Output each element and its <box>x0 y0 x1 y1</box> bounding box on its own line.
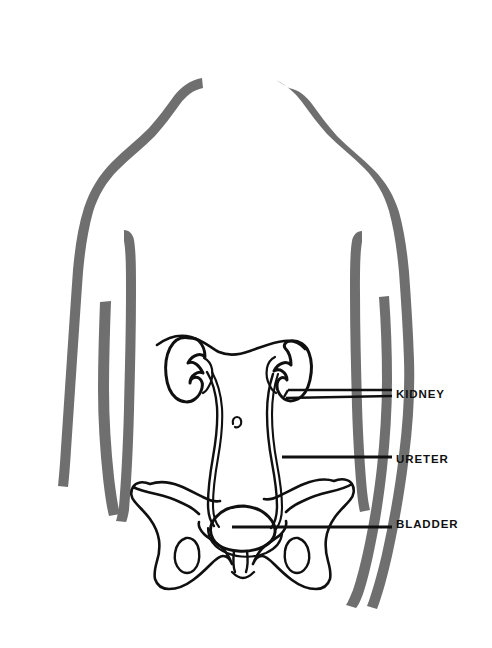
inner-band-right <box>350 231 370 512</box>
label-kidney: KIDNEY <box>396 389 445 401</box>
urinary-system-diagram: KIDNEY URETER BLADDER <box>0 0 492 648</box>
obturator-foramen-left <box>175 538 200 573</box>
torso-bands-group <box>58 78 414 609</box>
obturator-foramen-right <box>285 538 310 573</box>
label-ureter: URETER <box>396 454 449 466</box>
leader-line-kidney-tick <box>284 390 288 397</box>
pelvis-right <box>253 479 354 589</box>
organ-outline-group <box>131 336 353 589</box>
urethra <box>233 551 247 572</box>
outer-band-left <box>116 230 136 522</box>
kidney-left <box>166 337 205 401</box>
torso-outline-right <box>276 80 414 609</box>
umbilicus <box>233 417 242 427</box>
pelvis-left <box>131 482 232 589</box>
inner-band-left <box>98 301 120 516</box>
label-bladder: BLADDER <box>396 519 459 531</box>
anatomy-illustration <box>0 0 492 648</box>
